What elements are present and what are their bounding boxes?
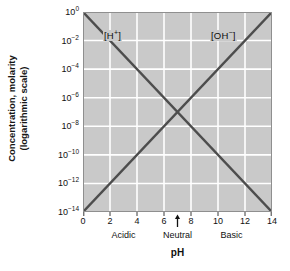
y-axis-tick-label: 10−2 (62, 36, 79, 46)
y-axis-title-line-2: (logarithmic scale) (17, 55, 29, 162)
x-axis-tick-label: 6 (161, 216, 166, 226)
x-axis-tick-label: 8 (188, 216, 193, 226)
y-axis-tick-label: 10−10 (58, 150, 79, 160)
y-axis-title: Concentration, molarity (logarithmic sca… (0, 0, 34, 216)
x-axis-tick-label: 12 (240, 216, 250, 226)
ph-region-label: Neutral (163, 230, 192, 240)
y-axis-tick-label: 10−4 (62, 64, 79, 74)
y-axis-tick-label: 10−8 (62, 121, 79, 131)
plot-graphics (83, 12, 272, 212)
series-label-hydroxide-base: [OH (211, 30, 229, 41)
series-label-hydrogen-tail: ] (118, 30, 121, 41)
ph-concentration-chart: Concentration, molarity (logarithmic sca… (0, 0, 290, 271)
series-label-hydrogen-base: [H (104, 30, 114, 41)
series-lines (83, 12, 272, 212)
ph-region-labels: AcidicNeutralBasic (83, 230, 272, 243)
y-axis-tick-labels: 10010−210−410−610−810−1010−1210−14 (34, 12, 82, 212)
x-axis-tick-label: 4 (134, 216, 139, 226)
ph-region-label: Acidic (111, 230, 135, 240)
y-axis-tick-label: 10−6 (62, 93, 79, 103)
y-axis-tick-label: 100 (65, 7, 79, 17)
series-label-hydroxide-tail: ] (233, 30, 236, 41)
x-axis-tick-label: 2 (107, 216, 112, 226)
x-axis-tick-label: 0 (80, 216, 85, 226)
x-axis-tick-label: 14 (267, 216, 277, 226)
series-label-hydrogen: [H+] (103, 30, 122, 41)
y-axis-tick-label: 10−14 (58, 207, 79, 217)
y-axis-title-text: Concentration, molarity (logarithmic sca… (6, 55, 29, 162)
ph-region-label: Basic (220, 230, 242, 240)
y-axis-title-line-1: Concentration, molarity (6, 55, 17, 162)
series-label-hydroxide: [OH−] (210, 30, 237, 41)
y-axis-tick-label: 10−12 (58, 178, 79, 188)
x-axis-title: pH (83, 247, 272, 258)
x-axis-tick-label: 10 (213, 216, 223, 226)
x-axis-tick-labels: 02468101214 (83, 216, 272, 229)
x-axis-tick-marks (83, 212, 272, 217)
plot-area: [H+] [OH−] (83, 12, 272, 212)
